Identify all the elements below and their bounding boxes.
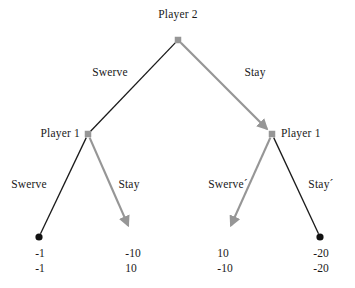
payoff-pair-t1: -1-1 xyxy=(35,246,45,276)
decision-node-root xyxy=(175,37,182,44)
node-label-root: Player 2 xyxy=(158,8,198,21)
edge-label-left-swerve: Swerve xyxy=(11,178,47,191)
payoff-player2-t4: -20 xyxy=(313,261,328,276)
decision-node-right xyxy=(269,131,276,138)
terminal-node-t4 xyxy=(316,233,323,240)
payoff-player1-t2: -10 xyxy=(125,246,140,261)
payoff-player2-t2: 10 xyxy=(125,261,140,276)
payoff-player1-t4: -20 xyxy=(313,246,328,261)
edge-label-right-swerve: Swerve´ xyxy=(208,178,248,191)
edge-label-root-stay: Stay xyxy=(244,66,265,79)
payoff-player1-t3: 10 xyxy=(217,246,232,261)
game-tree-diagram: SwerveStaySwerveStaySwerve´Stay´Player 2… xyxy=(0,0,355,288)
node-label-left: Player 1 xyxy=(40,127,80,140)
edge-label-right-stay: Stay´ xyxy=(308,178,333,191)
payoff-player2-t3: -10 xyxy=(217,261,232,276)
tree-edge-root-swerve xyxy=(89,43,175,133)
edge-label-root-swerve: Swerve xyxy=(92,66,128,79)
node-label-right: Player 1 xyxy=(281,127,321,140)
payoff-pair-t2: -1010 xyxy=(125,246,140,276)
edge-layer xyxy=(41,43,319,234)
tree-edge-root-stay xyxy=(181,43,267,129)
edge-label-left-stay: Stay xyxy=(118,178,139,191)
decision-node-left xyxy=(85,131,92,138)
payoff-pair-t3: 10-10 xyxy=(217,246,232,276)
tree-graphics xyxy=(0,0,355,288)
payoff-pair-t4: -20-20 xyxy=(313,246,328,276)
payoff-player2-t1: -1 xyxy=(35,261,45,276)
payoff-player1-t1: -1 xyxy=(35,246,45,261)
terminal-node-t1 xyxy=(35,233,42,240)
tree-edge-left-swerve xyxy=(41,138,87,234)
